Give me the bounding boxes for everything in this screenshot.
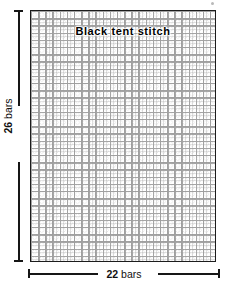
height-dimension-label: 26 bars bbox=[2, 84, 14, 148]
height-unit: bars bbox=[2, 98, 14, 118]
needlepoint-canvas-figure: Black tent stitch 26 bars 22 bars bbox=[0, 0, 247, 285]
height-rule-upper bbox=[18, 10, 20, 106]
scan-speck bbox=[211, 2, 214, 5]
width-dimension-label: 22 bars bbox=[26, 266, 222, 282]
mesh-grid bbox=[31, 11, 215, 261]
canvas-mesh-area: Black tent stitch bbox=[30, 10, 216, 262]
height-rule-lower bbox=[18, 162, 20, 262]
height-dimension-line bbox=[11, 10, 33, 262]
height-value: 26 bbox=[2, 122, 14, 134]
width-unit: bars bbox=[121, 268, 141, 280]
height-cap-bottom bbox=[14, 260, 23, 262]
stitch-label: Black tent stitch bbox=[31, 25, 215, 38]
width-dimension-line: 22 bars bbox=[26, 268, 222, 284]
width-value: 22 bbox=[106, 268, 118, 280]
